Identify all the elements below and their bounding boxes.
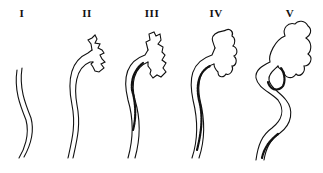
stage-3-tube xyxy=(126,32,166,158)
stage-2-tube xyxy=(68,35,105,158)
stage-4-tube xyxy=(191,29,237,158)
stage-1-tube xyxy=(16,68,32,158)
diagram-canvas xyxy=(0,0,323,173)
stage-5-tube xyxy=(256,21,311,160)
